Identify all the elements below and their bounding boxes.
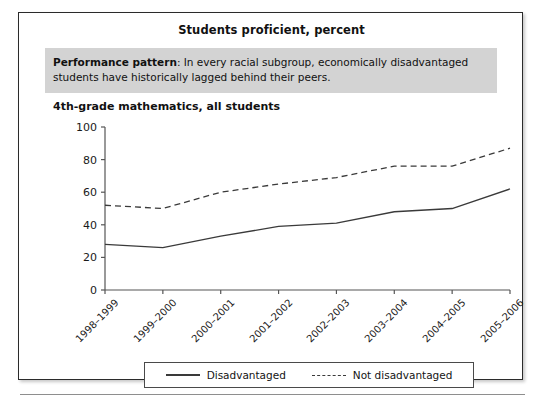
y-axis-tick-label: 80 <box>83 154 97 167</box>
legend-label-disadvantaged: Disadvantaged <box>207 369 286 381</box>
callout-lead-label: Performance pattern <box>53 56 177 68</box>
series-line-1 <box>105 189 510 248</box>
legend-item-disadvantaged: Disadvantaged <box>166 369 286 381</box>
x-axis-tick-label: 2003–2004 <box>363 297 410 344</box>
x-axis-tick-label: 2005–2006 <box>478 297 525 344</box>
legend-line-dashed-icon <box>312 375 346 376</box>
series-line-2 <box>105 148 510 208</box>
x-axis-tick-label: 2000–2001 <box>189 297 236 344</box>
y-axis-tick-label: 100 <box>76 121 97 134</box>
chart-legend: Disadvantaged Not disadvantaged <box>144 362 474 388</box>
legend-label-not-disadvantaged: Not disadvantaged <box>353 369 453 381</box>
figure-title: Students proficient, percent <box>19 23 524 37</box>
legend-item-not-disadvantaged: Not disadvantaged <box>312 369 453 381</box>
x-axis-tick-label: 1998–1999 <box>73 297 120 344</box>
y-axis-tick-label: 60 <box>83 186 97 199</box>
x-axis-tick-label: 1999–2000 <box>131 297 178 344</box>
performance-pattern-callout: Performance pattern: In every racial sub… <box>45 48 497 93</box>
callout-separator: : <box>177 56 184 68</box>
x-axis-tick-label: 2001–2002 <box>247 297 294 344</box>
y-axis-tick-label: 0 <box>90 284 97 297</box>
figure-page: Students proficient, percent Performance… <box>0 0 545 408</box>
chart-plot-area: 020406080100 <box>45 117 515 302</box>
line-chart-svg: 020406080100 <box>45 117 515 302</box>
chart-subtitle: 4th-grade mathematics, all students <box>53 100 280 113</box>
legend-line-solid-icon <box>166 374 200 376</box>
x-axis-tick-label: 2002–2003 <box>305 297 352 344</box>
y-axis-tick-label: 40 <box>83 219 97 232</box>
x-axis-tick-label: 2004–2005 <box>421 297 468 344</box>
figure-container: Students proficient, percent Performance… <box>18 12 523 380</box>
page-bottom-rule <box>20 394 525 395</box>
y-axis-tick-label: 20 <box>83 251 97 264</box>
